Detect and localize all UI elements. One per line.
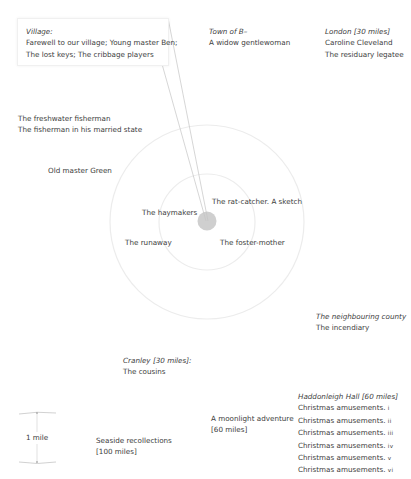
distance-note: [60 miles] [211,424,294,435]
story-title-text: Christmas amusements. [298,403,385,412]
story-title-text: Christmas amusements. [298,416,385,425]
roman-numeral: iv [388,443,393,449]
story-title: The runaway [125,237,172,248]
story-title-text: Christmas amusements. [298,428,385,437]
story-title: The rat-catcher. A sketch [212,196,302,207]
place-foster-mother: The foster-mother [220,237,285,248]
village-callout: Village: Farewell to our village; Young … [26,26,177,60]
scale-bar-tick-top [36,412,38,414]
place-heading: London [30 miles] [325,26,404,37]
distance-note: [100 miles] [96,446,172,457]
roman-numeral: iii [388,430,394,436]
story-title: The fisherman in his married state [18,124,142,135]
story-title: A moonlight adventure [211,413,294,424]
place-heading: The neighbouring county [316,311,406,322]
roman-numeral: ii [388,418,392,424]
place-heading: Haddonleigh Hall [60 miles] [298,391,398,402]
story-title: Christmas amusements. iv [298,440,398,452]
story-title: The freshwater fisherman [18,113,142,124]
story-title: The haymakers [142,207,197,218]
story-title: The incendiary [316,322,406,333]
story-title: Christmas amusements. iii [298,427,398,439]
place-cranley: Cranley [30 miles]: The cousins [123,355,192,378]
story-title: Old master Green [48,165,112,176]
story-title: Seaside recollections [96,435,172,446]
place-town-b: Town of B– A widow gentlewoman [209,26,290,49]
scale-bar-label: 1 mile [26,432,48,443]
village-heading: Village: [26,26,177,37]
roman-numeral: v [388,455,392,461]
story-title-text: Christmas amusements. [298,441,385,450]
place-heading: Town of B– [209,26,290,37]
place-rat-catcher: The rat-catcher. A sketch [212,196,302,207]
place-haymakers: The haymakers [142,207,197,218]
story-title: The foster-mother [220,237,285,248]
story-title: A widow gentlewoman [209,37,290,48]
place-moonlight: A moonlight adventure [60 miles] [211,413,294,436]
place-old-master-green: Old master Green [48,165,112,176]
place-haddonleigh: Haddonleigh Hall [60 miles] Christmas am… [298,391,398,477]
story-title-text: Christmas amusements. [298,465,385,474]
story-title: Christmas amusements. v [298,452,398,464]
roman-numeral: i [388,405,390,411]
story-title: The cousins [123,366,192,377]
scale-bar-tick-bottom [36,461,38,463]
story-title-text: Christmas amusements. [298,453,385,462]
story-title: Christmas amusements. i [298,402,398,414]
story-title: Christmas amusements. vi [298,464,398,476]
roman-numeral: vi [388,467,393,473]
place-fisherman: The freshwater fisherman The fisherman i… [18,113,142,136]
place-neighbouring-county: The neighbouring county The incendiary [316,311,406,334]
village-line: Farewell to our village; Young master Be… [26,37,177,48]
story-title: The residuary legatee [325,49,404,60]
callout-leader-line-b [162,64,206,221]
story-title: Christmas amusements. ii [298,415,398,427]
place-london: London [30 miles] Caroline Cleveland The… [325,26,404,60]
place-seaside: Seaside recollections [100 miles] [96,435,172,458]
place-runaway: The runaway [125,237,172,248]
place-heading: Cranley [30 miles]: [123,355,192,366]
story-title: Caroline Cleveland [325,37,404,48]
village-line: The lost keys; The cribbage players [26,49,177,60]
